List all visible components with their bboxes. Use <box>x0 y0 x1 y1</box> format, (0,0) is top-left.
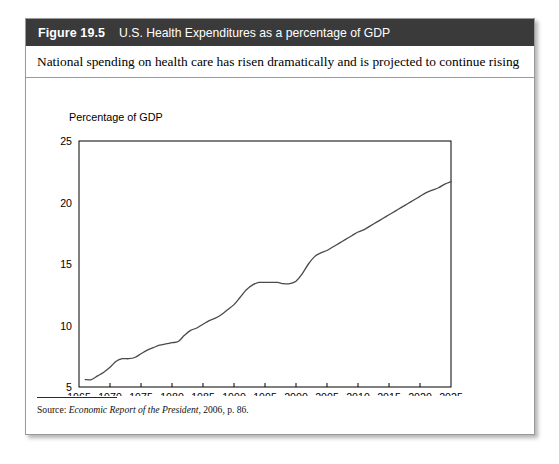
x-tick-label: 1970 <box>98 391 122 396</box>
figure-header-bar: Figure 19.5 U.S. Health Expenditures as … <box>26 19 534 46</box>
source-text: Source: Economic Report of the President… <box>37 404 507 415</box>
x-tick-label: 2005 <box>315 391 339 396</box>
x-tick-label: 1965 <box>67 391 91 396</box>
source-label: Source: <box>37 404 66 415</box>
figure-title: U.S. Health Expenditures as a percentage… <box>119 26 390 40</box>
y-tick-label: 20 <box>60 197 72 209</box>
y-tick-label: 15 <box>60 258 72 270</box>
x-tick-label: 2000 <box>284 391 308 396</box>
data-line-health-expenditures <box>85 182 451 380</box>
x-tick-label: 2020 <box>408 391 432 396</box>
x-tick-label: 1995 <box>253 391 277 396</box>
source-detail: , 2006, p. 86. <box>198 404 248 415</box>
x-tick-label: 1975 <box>129 391 153 396</box>
x-tick-label: 1985 <box>191 391 215 396</box>
y-tick-label: 10 <box>60 320 72 332</box>
figure-subtitle-band: National spending on health care has ris… <box>26 46 534 78</box>
source-divider <box>37 397 117 398</box>
y-tick-label: 25 <box>60 135 72 147</box>
x-tick-label: 2010 <box>346 391 370 396</box>
x-tick-label: 2025 <box>439 391 463 396</box>
line-chart: Percentage of GDP51015202519651970197519… <box>26 78 534 396</box>
plot-frame <box>79 141 451 387</box>
x-tick-label: 1990 <box>222 391 246 396</box>
y-axis-label: Percentage of GDP <box>69 111 163 123</box>
figure-subtitle: National spending on health care has ris… <box>37 54 519 70</box>
source-footer: Source: Economic Report of the President… <box>37 397 507 415</box>
x-tick-label: 1980 <box>160 391 184 396</box>
source-publication: Economic Report of the President <box>69 404 199 415</box>
figure-number: Figure 19.5 <box>38 26 105 40</box>
figure-container: Figure 19.5 U.S. Health Expenditures as … <box>25 18 535 435</box>
chart-body: Percentage of GDP51015202519651970197519… <box>26 78 534 396</box>
x-tick-label: 2015 <box>377 391 401 396</box>
